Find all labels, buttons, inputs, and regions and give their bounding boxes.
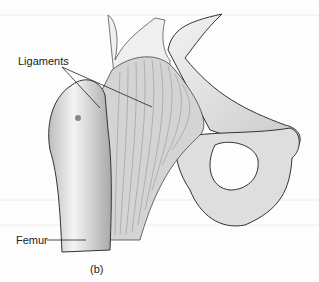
panel-label: (b) xyxy=(90,264,103,275)
label-ligaments: Ligaments xyxy=(18,56,69,67)
label-femur: Femur xyxy=(16,235,48,246)
femur xyxy=(49,80,112,252)
trochanter-mark xyxy=(75,115,81,121)
anatomical-illustration: Ligaments Femur (b) xyxy=(0,0,319,282)
